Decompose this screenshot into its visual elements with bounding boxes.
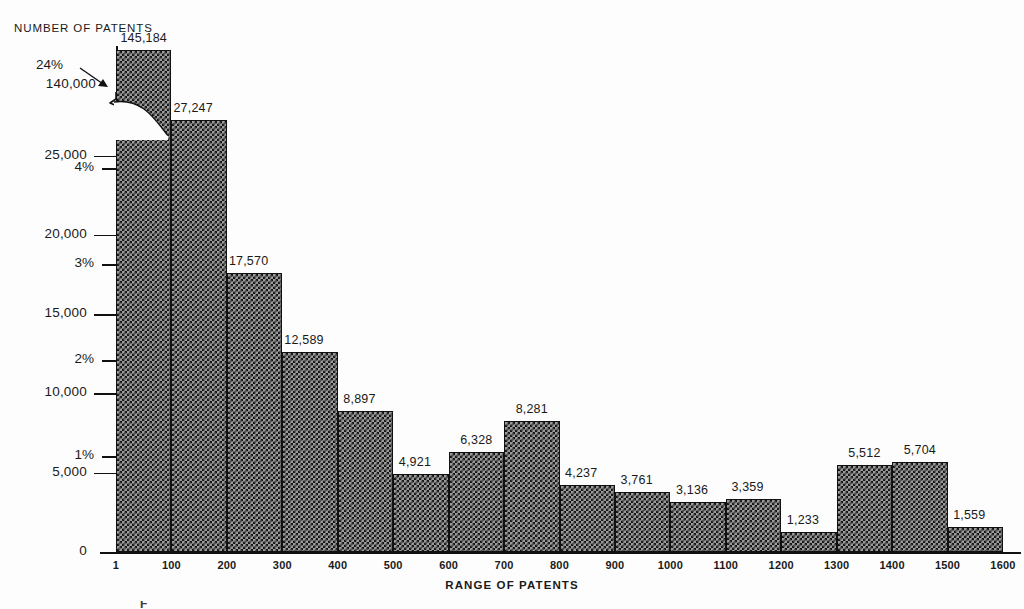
bar-value-label: 8,897	[328, 392, 390, 406]
y-axis-tick	[94, 393, 116, 395]
y-axis-percent-tick	[102, 168, 116, 170]
bar-value-label: 27,247	[162, 101, 224, 115]
x-axis-tick-label: 700	[482, 559, 526, 571]
x-axis-line	[100, 552, 1021, 554]
x-axis-tick-label: 1100	[704, 559, 748, 571]
bar-value-label: 4,237	[550, 466, 612, 480]
x-axis-tick-label: 100	[149, 559, 193, 571]
y-axis-percent-label: 1%	[0, 447, 94, 462]
y-axis-tick	[94, 473, 116, 475]
figure-caption-clipped: F	[140, 601, 380, 609]
bar-value-label: 5,512	[833, 446, 895, 460]
x-axis-tick-label: 200	[205, 559, 249, 571]
figure-caption-text: F	[140, 601, 148, 609]
y-axis-percent-tick	[102, 456, 116, 458]
bar-value-label: 3,359	[717, 480, 779, 494]
bar	[116, 50, 171, 552]
x-axis-tick-label: 600	[427, 559, 471, 571]
chart-figure: NUMBER OF PATENTS 24% 140,000 145,18427,…	[0, 0, 1024, 609]
bar	[338, 411, 393, 552]
y-axis-tick	[94, 314, 116, 316]
y-axis-tick-label: 5,000	[0, 464, 87, 479]
y-axis-tick	[94, 235, 116, 237]
bar	[393, 474, 448, 552]
y-axis-percent-label: 4%	[0, 159, 94, 174]
x-axis-tick-label: 1500	[926, 559, 970, 571]
y-axis-top-percent-label: 24%	[36, 57, 63, 72]
x-axis-tick-label: 1000	[648, 559, 692, 571]
y-axis-percent-tick	[102, 264, 116, 266]
bar	[504, 421, 559, 552]
x-axis-tick-label: 1400	[870, 559, 914, 571]
x-axis-tick-label: 400	[316, 559, 360, 571]
bar-value-label: 6,328	[445, 433, 507, 447]
x-axis-title: RANGE OF PATENTS	[0, 579, 1024, 591]
bar	[560, 485, 615, 552]
x-axis-tick-label: 1600	[981, 559, 1024, 571]
bar	[282, 352, 337, 552]
bar	[670, 502, 725, 552]
x-axis-tick-label: 500	[371, 559, 415, 571]
bar	[837, 465, 892, 552]
y-axis-tick-label: 20,000	[0, 226, 87, 241]
y-axis-tick-label: 0	[0, 543, 87, 558]
y-axis-tick-label: 10,000	[0, 384, 87, 399]
y-axis-top-value-label: 140,000	[0, 76, 96, 91]
x-axis-tick-label: 300	[260, 559, 304, 571]
bar-value-label: 17,570	[218, 254, 280, 268]
x-axis-tick-label: 900	[593, 559, 637, 571]
bar	[227, 273, 282, 552]
y-axis-percent-label: 2%	[0, 351, 94, 366]
bar-value-label: 5,704	[889, 443, 951, 457]
bar-value-label: 3,136	[661, 483, 723, 497]
bar	[449, 452, 504, 552]
bar-value-label: 1,559	[938, 508, 1000, 522]
bar	[892, 462, 947, 552]
bar	[948, 527, 1003, 552]
y-axis-tick-label: 15,000	[0, 305, 87, 320]
x-axis-tick-label: 1	[94, 559, 138, 571]
bar	[781, 532, 836, 552]
bar	[615, 492, 670, 552]
y-axis-percent-label: 3%	[0, 255, 94, 270]
x-axis-tick-label: 1200	[759, 559, 803, 571]
bar-value-label: 8,281	[501, 402, 563, 416]
bar-value-label: 3,761	[606, 473, 668, 487]
bar-value-label: 145,184	[113, 31, 175, 45]
y-axis-percent-tick	[102, 360, 116, 362]
x-axis-tick-label: 800	[538, 559, 582, 571]
y-axis-tick	[94, 156, 116, 158]
bar-value-label: 1,233	[772, 513, 834, 527]
bar-value-label: 4,921	[384, 455, 446, 469]
bar	[171, 120, 226, 552]
x-axis-tick-label: 1300	[815, 559, 859, 571]
bar-value-label: 12,589	[273, 333, 335, 347]
